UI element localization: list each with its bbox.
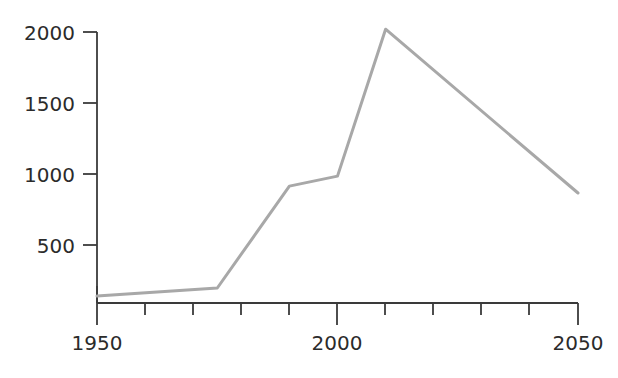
y-axis-ticks [83,32,97,245]
x-tick-label-2050: 2050 [553,331,604,355]
y-tick-label-1000: 1000 [24,163,75,187]
y-tick-label-2000: 2000 [24,21,75,45]
y-tick-label-500: 500 [37,234,75,258]
chart-canvas: 2000 1500 1000 500 1950 2000 [0,0,618,378]
x-tick-label-2000: 2000 [312,331,363,355]
x-tick-label-1950: 1950 [72,331,123,355]
y-tick-label-1500: 1500 [24,92,75,116]
data-line-series [97,29,578,296]
line-chart: 2000 1500 1000 500 1950 2000 [0,0,618,378]
y-axis-tick-labels: 2000 1500 1000 500 [24,21,75,258]
x-axis-tick-labels: 1950 2000 2050 [72,331,604,355]
